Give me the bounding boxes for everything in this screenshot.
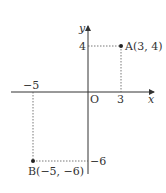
x-axis-label: x <box>148 93 155 106</box>
y-axis-label: y <box>78 22 86 35</box>
point-b-label: B(−5, −6) <box>28 165 84 178</box>
point-a-label: A(3, 4) <box>124 40 163 53</box>
point-b <box>31 159 35 163</box>
coordinate-plane: y x O 4 3 −5 −6 A(3, 4) B(−5, −6) <box>0 0 166 193</box>
tick-label-x-neg5: −5 <box>23 79 39 92</box>
origin-label: O <box>90 93 99 106</box>
tick-label-x-3: 3 <box>117 93 124 106</box>
point-a <box>119 44 123 48</box>
tick-label-y-4: 4 <box>79 40 86 53</box>
tick-label-y-neg6: −6 <box>90 155 106 168</box>
